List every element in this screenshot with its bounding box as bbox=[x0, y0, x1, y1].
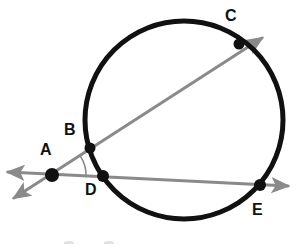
point-label-D: D bbox=[85, 182, 97, 198]
geometry-figure: A B C D E bbox=[0, 0, 298, 244]
point-dot-B bbox=[85, 143, 96, 154]
angle-arc-at-A bbox=[81, 156, 87, 176]
point-label-C: C bbox=[225, 8, 237, 24]
point-dot-E bbox=[254, 179, 266, 191]
main-circle bbox=[85, 21, 283, 219]
point-label-E: E bbox=[252, 202, 263, 218]
point-dot-D bbox=[97, 170, 109, 182]
labeled-points-group bbox=[45, 39, 266, 192]
point-label-A: A bbox=[40, 142, 52, 158]
point-dot-A bbox=[45, 168, 59, 182]
point-dot-C bbox=[234, 39, 245, 50]
point-label-B: B bbox=[64, 122, 76, 138]
